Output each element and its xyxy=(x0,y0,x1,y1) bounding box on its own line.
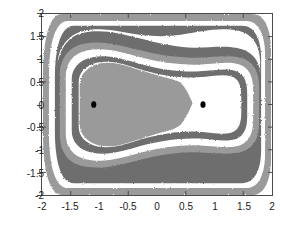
plot-area xyxy=(41,13,273,196)
ytick-mark-0.5 xyxy=(37,82,41,83)
xtick-label-0.5: 0.5 xyxy=(179,202,193,212)
marker-left-fixed-point xyxy=(91,101,96,108)
ytick-mark-2 xyxy=(37,13,41,14)
ytick-mark-1.5 xyxy=(37,36,41,37)
ytick-label-1.5: 1.5 xyxy=(30,32,44,42)
ytick-label-2: 2 xyxy=(38,9,44,19)
ytick-label-neg0.5: -0.5 xyxy=(27,123,44,133)
xtick-label-2: 2 xyxy=(269,202,275,212)
ytick-label-neg1: -1 xyxy=(35,146,44,156)
ytick-mark-1 xyxy=(37,59,41,60)
ytick-label-neg2: -2 xyxy=(35,191,44,201)
contour-bands xyxy=(43,14,271,195)
ytick-label-neg1.5: -1.5 xyxy=(27,169,44,179)
xtick-label-1: 1 xyxy=(212,202,218,212)
ytick-mark-neg1.5 xyxy=(37,173,41,174)
ytick-label-1: 1 xyxy=(38,55,44,65)
phase-portrait-plot xyxy=(42,14,272,195)
ytick-label-0: 0 xyxy=(38,101,44,111)
marker-right-fixed-point xyxy=(200,101,205,108)
ytick-mark-neg2 xyxy=(37,195,41,196)
xtick-label-neg0.5: -0.5 xyxy=(119,202,136,212)
ytick-mark-neg0.5 xyxy=(37,127,41,128)
xtick-label-neg1.5: -1.5 xyxy=(61,202,78,212)
xtick-label-neg2: -2 xyxy=(38,202,47,212)
xtick-label-neg1: -1 xyxy=(95,202,104,212)
ytick-label-0.5: 0.5 xyxy=(30,78,44,88)
ytick-mark-0 xyxy=(37,105,41,106)
figure-container: 2 1.5 1 0.5 0 -0.5 -1 -1.5 -2 -2 -1.5 -1… xyxy=(0,0,283,226)
ytick-mark-neg1 xyxy=(37,150,41,151)
xtick-label-1.5: 1.5 xyxy=(237,202,251,212)
xtick-label-0: 0 xyxy=(154,202,160,212)
